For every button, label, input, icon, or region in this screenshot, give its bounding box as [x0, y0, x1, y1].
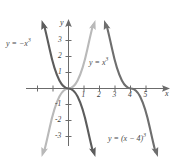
curve-label-neg-cube-exponent: 3 [28, 37, 31, 43]
x-tick-label-2: 2 [97, 91, 101, 99]
curve-label-shifted-cube-exponent: 3 [143, 132, 146, 138]
y-axis [65, 19, 72, 146]
curve-label-neg-cube-base: y = −x [6, 39, 28, 48]
x-tick-label-4: 4 [128, 91, 132, 99]
x-tick-label-1: 1 [82, 91, 86, 99]
x-tick-label-3: 3 [113, 91, 117, 99]
curve-label-cube-exponent: 3 [106, 56, 109, 62]
cubic-functions-figure: y x 1 2 3 4 5 1 2 3 -1 -2 -3 y = −x3 y =… [0, 0, 176, 158]
curve-label-shifted-cube-base: y = (x − 4) [108, 134, 143, 143]
y-tick-label-1: 1 [58, 68, 62, 76]
curve-label-shifted-cube: y = (x − 4)3 [108, 133, 146, 143]
y-axis-label: y [60, 19, 64, 27]
y-tick-label-2: 2 [58, 52, 62, 60]
x-tick-label-5: 5 [144, 91, 148, 99]
curve-label-neg-cube: y = −x3 [6, 38, 31, 48]
curve-label-cube-base: y = x [89, 58, 106, 67]
y-tick-label-neg-3: -3 [55, 132, 61, 140]
y-tick-label-neg-2: -2 [55, 116, 61, 124]
x-axis-label: x [165, 90, 169, 98]
y-tick-label-3: 3 [58, 36, 62, 44]
coordinate-plot [0, 0, 176, 158]
curve-label-cube: y = x3 [89, 57, 108, 67]
y-tick-label-neg-1: -1 [55, 100, 61, 108]
